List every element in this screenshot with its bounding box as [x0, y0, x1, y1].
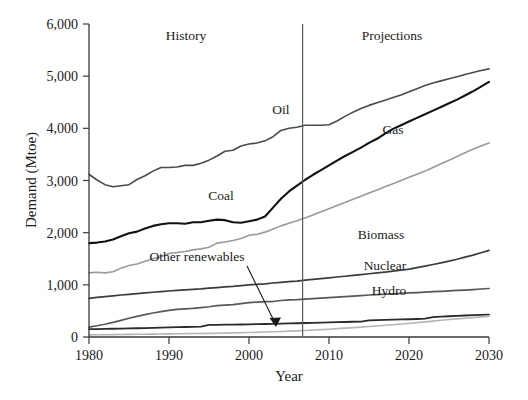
energy-demand-line-chart: 01,0002,0003,0004,0005,0006,000 19801990… — [0, 0, 528, 400]
x-tick-label: 2020 — [395, 348, 423, 363]
y-tick-label: 1,000 — [47, 278, 79, 293]
x-axis-title: Year — [275, 368, 303, 384]
series-label-biomass: Biomass — [358, 227, 405, 242]
y-tick-label: 3,000 — [47, 174, 79, 189]
y-axis-title: Demand (Mtoe) — [23, 132, 40, 228]
y-tick-label: 5,000 — [47, 69, 79, 84]
x-tick-label: 1990 — [155, 348, 183, 363]
x-tick-label: 1980 — [75, 348, 103, 363]
region-label-history: History — [166, 28, 207, 43]
series-label-nuclear: Nuclear — [364, 258, 407, 273]
x-tick-label: 2000 — [235, 348, 263, 363]
chart-figure: 01,0002,0003,0004,0005,0006,000 19801990… — [0, 0, 528, 400]
chart-background — [0, 0, 528, 400]
y-tick-label: 6,000 — [47, 17, 79, 32]
x-tick-label: 2030 — [475, 348, 503, 363]
series-label-hydro: Hydro — [372, 283, 407, 298]
y-tick-label: 4,000 — [47, 121, 79, 136]
region-label-projections: Projections — [362, 28, 423, 43]
series-label-gas: Gas — [383, 122, 404, 137]
series-label-other-renewables: Other renewables — [150, 249, 245, 264]
y-tick-label: 0 — [71, 330, 78, 345]
y-tick-label: 2,000 — [47, 226, 79, 241]
x-tick-label: 2010 — [315, 348, 343, 363]
series-label-oil: Oil — [272, 102, 290, 117]
series-label-coal: Coal — [208, 188, 234, 203]
